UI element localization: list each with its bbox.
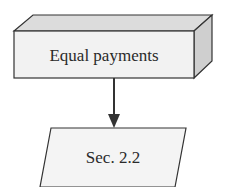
arrow-head-icon (108, 114, 120, 128)
node-label-equal-payments: Equal payments (49, 46, 158, 65)
node-sec-2-2: Sec. 2.2 (40, 128, 186, 187)
node-label-sec-2-2: Sec. 2.2 (86, 148, 140, 167)
node-equal-payments: Equal payments (14, 15, 212, 78)
box-top-face (14, 15, 212, 31)
edge-arrow (108, 78, 120, 128)
flow-diagram: Equal payments Sec. 2.2 (0, 0, 232, 187)
